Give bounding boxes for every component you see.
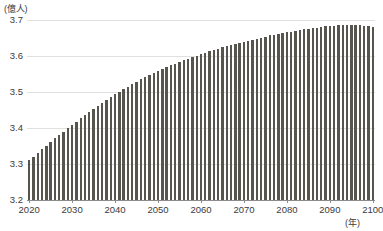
bar bbox=[54, 138, 56, 200]
bar bbox=[32, 157, 34, 200]
bar bbox=[80, 118, 82, 200]
bar bbox=[354, 25, 356, 200]
bar bbox=[174, 64, 176, 200]
bar bbox=[183, 60, 185, 200]
x-axis-tick bbox=[201, 200, 202, 203]
bar bbox=[140, 79, 142, 200]
bar bbox=[165, 67, 167, 200]
bar bbox=[324, 26, 326, 200]
bar bbox=[294, 31, 296, 200]
bar bbox=[372, 27, 374, 200]
x-axis-tick-label: 2040 bbox=[104, 204, 125, 215]
bar bbox=[157, 71, 159, 200]
x-axis-tick-label: 2020 bbox=[19, 204, 40, 215]
x-axis-tick bbox=[115, 200, 116, 203]
bar bbox=[217, 49, 219, 200]
bar bbox=[37, 153, 39, 200]
bar bbox=[204, 53, 206, 200]
bar bbox=[273, 35, 275, 200]
bar bbox=[234, 44, 236, 200]
x-axis-tick bbox=[72, 200, 73, 203]
x-axis-tick-label: 2050 bbox=[147, 204, 168, 215]
bar bbox=[161, 69, 163, 200]
bar bbox=[41, 149, 43, 200]
y-axis-unit-label: (億人) bbox=[4, 2, 27, 15]
bar bbox=[286, 32, 288, 200]
bar bbox=[359, 25, 361, 200]
bar bbox=[148, 75, 150, 200]
x-axis-tick bbox=[287, 200, 288, 203]
bar bbox=[105, 100, 107, 200]
bar bbox=[75, 122, 77, 200]
bar bbox=[58, 135, 60, 200]
bar bbox=[363, 26, 365, 200]
bar bbox=[238, 43, 240, 200]
bar bbox=[114, 94, 116, 200]
bar bbox=[333, 26, 335, 200]
bar-series bbox=[27, 20, 375, 200]
bar bbox=[342, 25, 344, 200]
bar bbox=[350, 25, 352, 200]
bar bbox=[127, 87, 129, 200]
bar bbox=[247, 41, 249, 200]
bar bbox=[307, 29, 309, 200]
x-axis-tick-label: 2070 bbox=[233, 204, 254, 215]
bar bbox=[329, 26, 331, 200]
x-axis-tick bbox=[29, 200, 30, 203]
bar bbox=[213, 50, 215, 200]
bar bbox=[191, 57, 193, 200]
bar bbox=[337, 25, 339, 200]
bar bbox=[269, 35, 271, 200]
x-axis-tick-label: 2060 bbox=[190, 204, 211, 215]
bar bbox=[110, 97, 112, 200]
bar bbox=[277, 34, 279, 200]
bar bbox=[144, 77, 146, 200]
bar bbox=[243, 42, 245, 200]
x-axis: 202020302040205020602070208020902100 bbox=[27, 200, 375, 230]
bar bbox=[320, 27, 322, 200]
bar bbox=[88, 112, 90, 200]
bar bbox=[131, 84, 133, 200]
bar bbox=[67, 128, 69, 200]
bar bbox=[290, 32, 292, 200]
bar bbox=[281, 33, 283, 200]
bar bbox=[303, 29, 305, 200]
bar bbox=[260, 38, 262, 200]
y-axis-tick-label: 3.4 bbox=[10, 123, 23, 133]
bar bbox=[28, 160, 30, 200]
x-axis-tick bbox=[330, 200, 331, 203]
bar bbox=[346, 25, 348, 200]
bar bbox=[264, 37, 266, 200]
bar bbox=[230, 45, 232, 200]
bar bbox=[170, 65, 172, 200]
bar bbox=[221, 47, 223, 200]
bar bbox=[251, 40, 253, 200]
bar bbox=[200, 54, 202, 200]
y-axis-tick-label: 3.3 bbox=[10, 159, 23, 169]
y-axis-tick-label: 3.6 bbox=[10, 51, 23, 61]
bar bbox=[226, 46, 228, 200]
bar bbox=[367, 26, 369, 200]
plot-area: 3.23.33.43.53.63.7 bbox=[27, 20, 375, 200]
y-axis-tick-label: 3.7 bbox=[10, 15, 23, 25]
x-axis-tick bbox=[158, 200, 159, 203]
bar bbox=[101, 103, 103, 200]
bar bbox=[62, 132, 64, 200]
bar bbox=[316, 28, 318, 200]
x-axis-tick-label: 2080 bbox=[276, 204, 297, 215]
bar bbox=[118, 92, 120, 200]
bar bbox=[312, 28, 314, 200]
x-axis-tick-label: 2100 bbox=[362, 204, 383, 215]
bar bbox=[84, 115, 86, 200]
bar bbox=[187, 59, 189, 200]
bar bbox=[122, 89, 124, 200]
x-axis-tick bbox=[244, 200, 245, 203]
bar bbox=[153, 73, 155, 200]
bar bbox=[299, 30, 301, 200]
bar bbox=[208, 51, 210, 200]
bar bbox=[45, 146, 47, 200]
x-axis-tick-label: 2030 bbox=[62, 204, 83, 215]
bar bbox=[256, 39, 258, 200]
bar bbox=[135, 82, 137, 200]
